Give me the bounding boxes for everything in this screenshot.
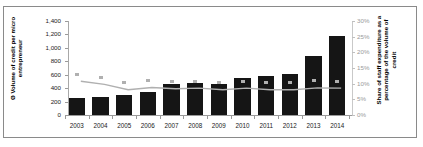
line-marker [288, 81, 292, 84]
y-axis-right-tick [352, 37, 355, 38]
bar [116, 95, 133, 115]
y-axis-right-tick-label: 0% [357, 112, 379, 118]
y-axis-left-tick [65, 88, 68, 89]
line-marker [75, 73, 79, 76]
line-marker [312, 79, 316, 82]
bar [140, 92, 157, 115]
y-axis-right-tick-label: 15% [357, 65, 379, 71]
y-axis-right-tick [352, 21, 355, 22]
line-marker [146, 79, 150, 82]
y-axis-left-tick-label: 1,000 [35, 45, 61, 51]
bar [305, 56, 322, 115]
line-marker [217, 81, 221, 84]
y-axis-left-tick [65, 21, 68, 22]
x-axis-tick [231, 116, 232, 119]
y-axis-right-tick-label: 30% [357, 18, 379, 24]
line-marker [193, 80, 197, 83]
y-axis-right-tick [352, 84, 355, 85]
x-axis-tick [136, 116, 137, 119]
y-axis-left-tick [65, 48, 68, 49]
line-marker [335, 80, 339, 83]
y-axis-left-tick-label: 200 [35, 99, 61, 105]
x-axis-tick [278, 116, 279, 119]
line-marker [122, 81, 126, 84]
y-axis-left-tick-label: 0 [35, 112, 61, 118]
bar [92, 97, 109, 115]
x-axis-tick [65, 116, 66, 119]
bar [282, 74, 299, 115]
y-axis-right-tick [352, 99, 355, 100]
y-axis-left-tick-label: 400 [35, 85, 61, 91]
y-axis-right-tick-label: 20% [357, 49, 379, 55]
y-axis-left-tick-label: 1,200 [35, 31, 61, 37]
bar [187, 83, 204, 115]
x-axis-tick [302, 116, 303, 119]
line-marker [264, 81, 268, 84]
y-axis-right-tick-label: 5% [357, 96, 379, 102]
y-axis-right-tick-label: 10% [357, 81, 379, 87]
y-axis-left-tick [65, 102, 68, 103]
y-axis-left-tick [65, 75, 68, 76]
y-axis-left-tick-label: 1,400 [35, 18, 61, 24]
y-axis-right-tick-label: 25% [357, 34, 379, 40]
line-marker [99, 76, 103, 79]
y-axis-left-tick [65, 34, 68, 35]
x-axis-tick-label: 2014 [322, 122, 352, 129]
x-axis-tick [183, 116, 184, 119]
bar [211, 84, 228, 115]
line-marker [241, 80, 245, 83]
y-axis-right-tick [352, 52, 355, 53]
y-axis-right-tick [352, 68, 355, 69]
bar [163, 84, 180, 115]
bar [329, 36, 346, 115]
x-axis-tick [89, 116, 90, 119]
bar [234, 78, 251, 115]
x-axis-line [68, 115, 352, 116]
x-axis-tick [325, 116, 326, 119]
y-axis-left-tick [65, 61, 68, 62]
x-axis-tick [254, 116, 255, 119]
x-axis-tick [160, 116, 161, 119]
x-axis-tick [207, 116, 208, 119]
x-axis-tick [112, 116, 113, 119]
chart-frame: Ø Volume of credit per micro entrepreneu… [3, 6, 417, 138]
left-axis-title: Ø Volume of credit per micro entrepreneu… [9, 6, 24, 110]
y-axis-left-tick-label: 800 [35, 58, 61, 64]
y-axis-right-tick [352, 115, 355, 116]
line-marker [170, 80, 174, 83]
x-axis-tick [349, 116, 350, 119]
y-axis-left-tick-label: 600 [35, 72, 61, 78]
bar [69, 98, 86, 115]
